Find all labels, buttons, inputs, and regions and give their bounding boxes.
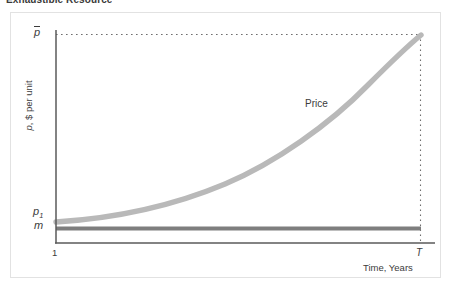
x-tick-start: 1 (52, 247, 57, 258)
x-axis-label: Time, Years (363, 262, 413, 273)
y-tick-p1: p1 (33, 205, 43, 220)
price-curve-annotation: Price (305, 98, 328, 109)
y-axis-label-var: p (23, 125, 34, 130)
x-tick-end: T (416, 247, 422, 258)
y-tick-pbar-text: p (34, 26, 40, 39)
y-axis-label-rest: , $ per unit (23, 80, 34, 125)
y-tick-pbar: p (34, 26, 40, 39)
figure-root: Exhaustible Resource p, $ per unit p p1 … (0, 0, 453, 291)
chart-canvas (0, 0, 453, 291)
price-curve (56, 35, 421, 222)
y-axis-label: p, $ per unit (23, 61, 34, 151)
y-tick-m: m (34, 219, 43, 231)
